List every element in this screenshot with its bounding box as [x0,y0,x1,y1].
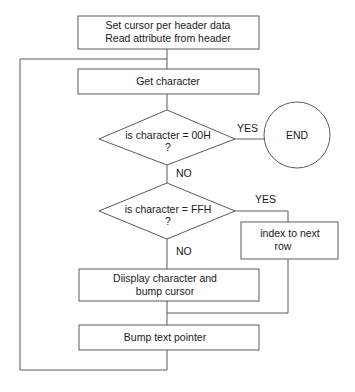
step-index-row-line1: index to next [260,227,320,239]
step-init-line2: Read attribute from header [105,32,231,44]
decision-check-ffh: is character = FFH ? [99,183,235,239]
decision-check-ffh-line1: is character = FFH [125,203,212,215]
decision-check-end-line2: ? [165,141,171,153]
label-no-ffh: NO [176,245,192,257]
step-display-line1: Diisplay character and [113,272,217,284]
step-display-box: Diisplay character and bump cursor [79,269,259,301]
terminal-end-label: END [286,129,309,141]
step-init-box: Set cursor per header data Read attribut… [78,16,259,49]
connector-yes-to-index-row [235,211,288,222]
decision-check-end-line1: is character = 00H [125,129,211,141]
step-init-line1: Set cursor per header data [106,19,231,31]
step-index-row-line2: row [275,240,292,252]
label-yes-ffh: YES [255,193,276,205]
label-yes-end: YES [237,122,258,134]
decision-check-ffh-line2: ? [165,215,171,227]
step-bump-ptr-label: Bump text pointer [124,331,207,343]
label-no-end: NO [176,167,192,179]
step-get-char-box: Get character [78,69,259,94]
terminal-end: END [264,102,330,168]
step-display-line2: bump cursor [136,285,195,297]
step-bump-ptr-box: Bump text pointer [79,325,259,350]
decision-check-end: is character = 00H ? [99,110,235,165]
step-index-row-box: index to next row [241,222,338,259]
step-get-char-label: Get character [136,75,200,87]
flowchart: Set cursor per header data Read attribut… [0,0,355,392]
